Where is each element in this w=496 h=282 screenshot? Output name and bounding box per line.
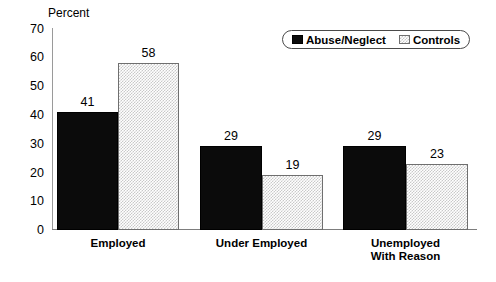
- x-category-label-unemployed-with-reason: Unemployed With Reason: [343, 237, 468, 263]
- gray-hatch-square-icon: [399, 35, 410, 44]
- bar-abuse-neglect-employed[interactable]: [57, 112, 118, 230]
- bar-controls-employed[interactable]: [118, 63, 179, 230]
- x-category-label-under-employed: Under Employed: [200, 237, 323, 250]
- bar-value-label-29-unemployed: 29: [343, 129, 406, 143]
- legend-item-controls[interactable]: Controls: [399, 34, 460, 46]
- legend-item-abuse-neglect[interactable]: Abuse/Neglect: [292, 34, 386, 46]
- bar-value-label-29-under: 29: [200, 129, 262, 143]
- bar-value-label-19: 19: [262, 158, 323, 172]
- bar-controls-under-employed[interactable]: [262, 175, 323, 230]
- bar-abuse-neglect-unemployed-with-reason[interactable]: [343, 146, 406, 230]
- bar-controls-unemployed-with-reason[interactable]: [406, 164, 468, 230]
- chart-canvas: Percent 70 60 50 40 30 20 10 0 41 58 29 …: [0, 0, 496, 282]
- legend-label-abuse-neglect: Abuse/Neglect: [306, 34, 386, 46]
- bar-value-label-41: 41: [57, 95, 118, 109]
- bar-value-label-58: 58: [118, 46, 179, 60]
- black-square-icon: [292, 35, 303, 44]
- bar-value-label-23: 23: [406, 147, 468, 161]
- bar-abuse-neglect-under-employed[interactable]: [200, 146, 262, 230]
- x-category-label-employed: Employed: [57, 237, 179, 250]
- legend: Abuse/Neglect Controls: [282, 30, 470, 49]
- legend-label-controls: Controls: [413, 34, 460, 46]
